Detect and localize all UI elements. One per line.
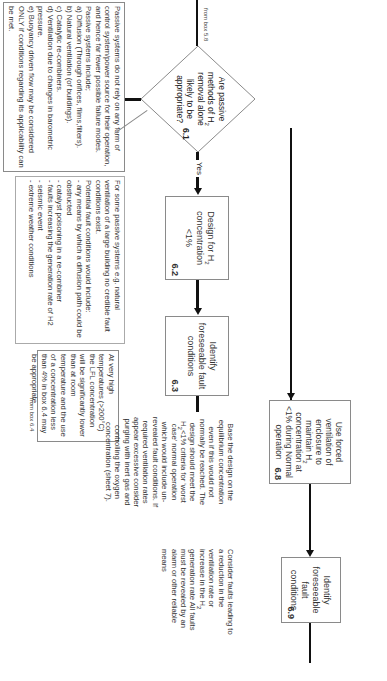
start-label: from box 5.8 — [203, 8, 209, 41]
arrow-right-icon — [287, 393, 295, 400]
decision-number: 6.1 — [181, 128, 191, 140]
connector-no-to-6-8 — [290, 128, 292, 400]
process-box-6-3[interactable]: Identify foreseeable fault conditions 6.… — [165, 316, 229, 396]
note-footer: from box 6.4 — [29, 398, 35, 431]
decision-text: Are passive methods of H2 removal alone … — [175, 62, 228, 136]
arrow-right-icon — [306, 550, 314, 557]
connector-6-2-6-3 — [196, 280, 199, 310]
connector-6-9-out — [309, 623, 311, 663]
process-box-6-8[interactable]: Use forced ventilation of enclosure to m… — [269, 400, 351, 484]
start-connector — [196, 0, 198, 46]
flowchart-canvas: from box 5.8 Are passive methods of H2 r… — [0, 0, 387, 681]
yes-label: Yes — [195, 160, 204, 177]
note-consider-faults: Consider faults leading to a reduction i… — [155, 546, 237, 638]
box-number: 6.2 — [169, 263, 180, 276]
arrow-right-icon — [194, 308, 202, 315]
arrow-right-icon — [194, 188, 202, 195]
note-passive-systems: Passive systems do not rely on any form … — [3, 2, 125, 172]
note-equilibrium: Base the design on the equilibrium conce… — [135, 412, 237, 512]
connector-6-8-6-9 — [309, 484, 311, 554]
note-fault-conditions: For some passive systems e.g. natural ve… — [15, 176, 125, 344]
box-number: 6.8 — [273, 467, 283, 480]
process-box-6-9[interactable]: Identify foreseeable fault conditions 6.… — [281, 557, 341, 623]
box-number: 6.3 — [169, 379, 180, 392]
box-number: 6.9 — [285, 606, 296, 619]
process-box-6-2[interactable]: Design for H2 concentration <1% 6.2 — [165, 196, 229, 280]
